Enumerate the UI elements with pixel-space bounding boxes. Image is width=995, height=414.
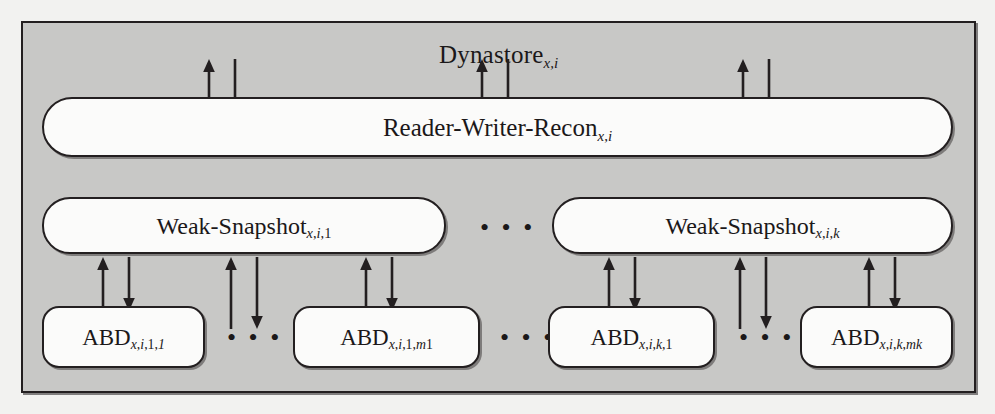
dynastore-title-subscript: x,i — [543, 55, 558, 71]
module-label-reader-writer-recon: Reader-Writer-Reconx,i — [383, 115, 612, 140]
abd2-sub-mn: 1 — [426, 337, 433, 352]
arrow-down-ws-left-abd1 — [121, 257, 137, 311]
module-reader-writer-recon[interactable]: Reader-Writer-Reconx,i — [42, 97, 953, 157]
module-abd-1[interactable]: ABDx,i,1,1 — [42, 306, 205, 368]
dynastore-title-base: Dynastore — [439, 41, 544, 68]
module-weak-snapshot-k[interactable]: Weak-Snapshotx,i,k — [552, 197, 953, 254]
abd1-subscript: x,i,1,1 — [131, 337, 165, 352]
module-weak-snapshot-1[interactable]: Weak-Snapshotx,i,1 — [42, 197, 446, 254]
rwr-sub-i: i — [608, 127, 612, 143]
ellipsis-abd-row-3: • • • — [739, 325, 794, 351]
module-abd-4[interactable]: ABDx,i,k,mk — [800, 306, 953, 368]
ws-right-subscript: x,i,k — [816, 225, 840, 241]
figure-root: Dynastorex,i — [0, 0, 995, 414]
arrow-down-ws-right-abd3 — [627, 257, 643, 311]
abd2-subscript: x,i,1,m1 — [389, 337, 433, 352]
module-abd-2[interactable]: ABDx,i,1,m1 — [293, 306, 480, 368]
abd4-sub-m: m — [906, 337, 916, 352]
ws-right-sub-last: k — [833, 225, 839, 241]
module-abd-3[interactable]: ABDx,i,k,1 — [548, 306, 715, 368]
arrow-up-ws-left-middle — [223, 257, 239, 329]
abd4-subscript: x,i,k,mk — [880, 337, 923, 352]
dynastore-title: Dynastorex,i — [23, 41, 974, 69]
arrow-up-ws-left-abd2 — [358, 257, 374, 311]
ws-left-subscript: x,i,1 — [307, 225, 332, 241]
module-label-abd-1: ABDx,i,1,1 — [82, 326, 165, 349]
abd1-sub-m: 1 — [158, 337, 165, 352]
rwr-base: Reader-Writer-Recon — [383, 114, 598, 141]
arrow-down-ws-right-abd4 — [887, 257, 903, 311]
abd2-base: ABD — [340, 325, 389, 350]
ellipsis-abd-row-1: • • • — [227, 325, 282, 351]
arrow-up-ws-right-abd3 — [601, 257, 617, 311]
ws-right-base: Weak-Snapshot — [665, 213, 815, 239]
module-label-weak-snapshot-k: Weak-Snapshotx,i,k — [665, 214, 839, 238]
rwr-subscript: x,i — [597, 127, 612, 143]
abd2-sub-m: m — [416, 337, 426, 352]
abd1-base: ABD — [82, 325, 131, 350]
arrow-up-ws-left-abd1 — [95, 257, 111, 311]
module-label-abd-2: ABDx,i,1,m1 — [340, 326, 433, 349]
abd3-base: ABD — [591, 325, 640, 350]
ws-left-base: Weak-Snapshot — [157, 213, 307, 239]
abd4-sub-mn: k — [916, 337, 922, 352]
abd4-base: ABD — [831, 325, 880, 350]
abd2-sub-g: 1 — [406, 337, 413, 352]
arrow-down-ws-left-middle — [249, 257, 265, 329]
arrow-up-ws-right-middle — [732, 257, 748, 329]
abd3-sub-m: 1 — [666, 337, 673, 352]
module-label-abd-4: ABDx,i,k,mk — [831, 326, 922, 349]
abd3-subscript: x,i,k,1 — [639, 337, 672, 352]
ws-left-sub-last: 1 — [324, 225, 331, 241]
ellipsis-weak-snapshot-row: • • • — [480, 215, 535, 241]
module-label-abd-3: ABDx,i,k,1 — [591, 326, 673, 349]
module-label-weak-snapshot-1: Weak-Snapshotx,i,1 — [157, 214, 332, 238]
arrow-up-ws-right-abd4 — [861, 257, 877, 311]
arrow-down-ws-left-abd2 — [384, 257, 400, 311]
arrow-down-ws-right-middle — [758, 257, 774, 329]
